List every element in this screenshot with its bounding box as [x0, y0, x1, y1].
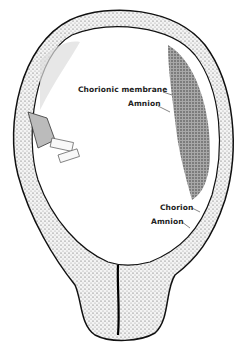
label-amnion-upper: Amnion [128, 99, 161, 108]
uterus-illustration [0, 0, 243, 347]
label-chorionic-membrane: Chorionic membrane [78, 85, 167, 94]
label-chorion: Chorion [160, 203, 193, 212]
cervical-canal [118, 265, 119, 335]
label-amnion-lower: Amnion [151, 217, 184, 226]
uterus-drawing [0, 0, 243, 347]
